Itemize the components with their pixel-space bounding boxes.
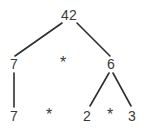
edge-six-to-leaf-two xyxy=(90,73,109,106)
node-left-seven: 7 xyxy=(10,57,18,71)
leaf-seven: 7 xyxy=(10,109,18,123)
node-right-six: 6 xyxy=(107,57,115,71)
node-root-42: 42 xyxy=(61,8,77,22)
edge-root-to-left-seven xyxy=(15,23,62,56)
expression-tree-diagram: 42 7 * 6 7 * 2 * 3 xyxy=(0,0,151,130)
operator-asterisk-leaf-right: * xyxy=(107,107,113,123)
edge-six-to-leaf-three xyxy=(113,73,131,106)
operator-asterisk-level1: * xyxy=(60,55,66,71)
edge-root-to-right-six xyxy=(77,23,110,56)
leaf-three: 3 xyxy=(128,109,136,123)
leaf-two: 2 xyxy=(83,109,91,123)
operator-asterisk-leaf-left: * xyxy=(46,107,52,123)
